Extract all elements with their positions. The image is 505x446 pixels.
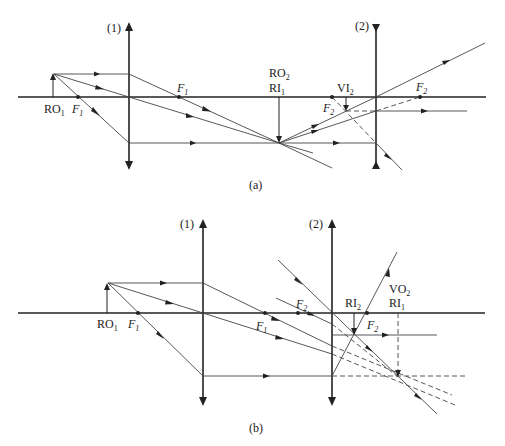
lens-1-bottom-arrow-icon: [125, 161, 133, 170]
rays-lens-1-b: [108, 281, 332, 379]
caption-b: (b): [249, 421, 263, 435]
label-vi2-a: VI2: [337, 81, 354, 97]
lens-1-top-arrow-icon: [199, 219, 207, 228]
lens-2-label-b: (2): [309, 217, 323, 231]
lens-2-top-arrow-icon: [328, 219, 336, 228]
focal-point-f1-left-a: [76, 95, 80, 99]
label-f2-left-a: F2: [322, 101, 334, 117]
lens-1-label-a: (1): [107, 21, 121, 35]
lens-2-bottom-arrow-icon: [372, 161, 380, 169]
label-f2-right-a: F2: [415, 80, 427, 96]
focal-point-f1-left-b: [136, 311, 140, 315]
caption-a: (a): [249, 178, 262, 192]
virtual-rays-b: [332, 313, 467, 405]
label-f2-left-b: F2: [295, 297, 307, 313]
label-f2-right-b: F2: [366, 318, 378, 334]
label-f1-right-a: F1: [176, 81, 188, 97]
two-lens-ray-diagram: (1) (2) RO1 F1 F1 RO2 RI1 VI2 F2 F2 (a): [0, 0, 505, 446]
label-f1-left-b: F1: [127, 317, 139, 333]
lens-1-bottom-arrow-icon: [199, 397, 207, 406]
focal-point-f2-left-b: [296, 311, 300, 315]
figure-a: [18, 22, 486, 170]
focal-point-f2-left-a: [330, 95, 334, 99]
label-f1-right-b: F1: [255, 319, 267, 335]
label-ro2-a: RO2: [269, 66, 290, 82]
lens-1-top-arrow-icon: [125, 22, 133, 31]
rays-lens-1-a: [54, 72, 332, 169]
figure-b: [18, 219, 485, 414]
rays-lens-2-a: [279, 43, 485, 170]
label-ri1-a: RI1: [269, 81, 285, 97]
label-f1-left-a: F1: [71, 102, 83, 118]
labels-b: (1) (2) RO1 F1 F1 F2 RI2 F2 VO2 RI1 (b): [97, 217, 410, 435]
label-ri1-b: RI1: [389, 296, 405, 312]
focal-point-f2-right-b: [365, 311, 369, 315]
rays-lens-2-b: [276, 252, 437, 414]
label-ro1-b: RO1: [97, 317, 118, 333]
label-ro1-a: RO1: [44, 102, 65, 118]
labels-a: (1) (2) RO1 F1 F1 RO2 RI1 VI2 F2 F2 (a): [44, 19, 427, 192]
lens-2-label-a: (2): [355, 19, 369, 33]
lens-2-bottom-arrow-icon: [328, 397, 336, 406]
focal-point-f1-right-a: [177, 95, 181, 99]
lens-1-label-b: (1): [180, 217, 194, 231]
label-ri2-b: RI2: [345, 296, 361, 312]
focal-point-f1-right-b: [263, 311, 267, 315]
lens-2-top-arrow-icon: [372, 24, 380, 32]
focal-point-f2-right-a: [418, 95, 422, 99]
